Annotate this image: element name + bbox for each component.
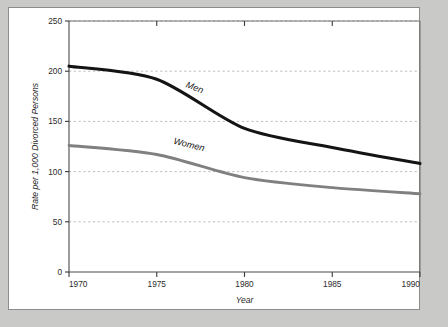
y-axis-tick-label: 0: [57, 267, 62, 277]
series-label-women: Women: [172, 136, 205, 153]
y-axis-title: Rate per 1,000 Divorced Persons: [30, 82, 40, 210]
y-axis-tick-label: 50: [53, 217, 63, 227]
y-axis-tick-label: 200: [48, 66, 62, 76]
series-label-men: Men: [185, 80, 205, 96]
x-axis-tick-label: 1990: [402, 279, 421, 289]
x-axis-tick-label: 1970: [69, 279, 88, 289]
x-axis-tick-label: 1975: [148, 279, 167, 289]
y-axis-tick-label: 150: [48, 116, 62, 126]
y-axis-tick-label: 250: [48, 16, 62, 26]
plot-frame: [69, 21, 420, 272]
chart-figure: 05010015020025019701975198019851990YearR…: [0, 0, 448, 327]
line-chart: 05010015020025019701975198019851990YearR…: [0, 0, 448, 327]
x-axis-tick-label: 1980: [235, 279, 254, 289]
x-axis-title: Year: [236, 295, 255, 305]
y-axis-tick-label: 100: [48, 167, 62, 177]
axis-lines: [69, 21, 420, 272]
x-axis-tick-label: 1985: [323, 279, 342, 289]
